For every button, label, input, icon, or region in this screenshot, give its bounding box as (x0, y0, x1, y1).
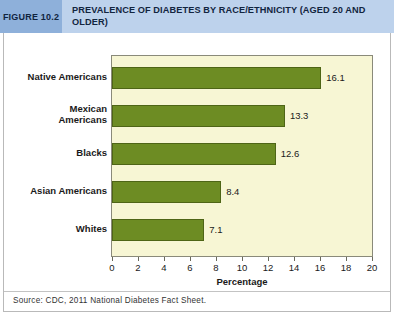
source-divider (4, 291, 390, 292)
x-axis-title: Percentage (111, 276, 373, 287)
x-axis-tick-label: 0 (109, 262, 114, 273)
x-axis-tick-label: 18 (341, 262, 352, 273)
category-label: MexicanAmericans (7, 103, 107, 125)
figure-container: FIGURE 10.2 PREVALENCE OF DIABETES BY RA… (0, 0, 394, 315)
x-axis-tick-label: 16 (315, 262, 326, 273)
bar-value-label: 13.3 (290, 105, 309, 127)
bar-value-label: 12.6 (281, 143, 300, 165)
bar-value-label: 16.1 (326, 67, 345, 89)
bar-value-label: 8.4 (226, 181, 239, 203)
category-label: Blacks (7, 147, 107, 158)
bars-layer: 16.113.312.68.47.1 (112, 56, 372, 256)
x-axis-tick-label: 14 (289, 262, 300, 273)
bar (112, 219, 204, 241)
plot-area: 16.113.312.68.47.1 (111, 55, 373, 257)
figure-body: Native AmericansMexicanAmericansBlacksAs… (3, 33, 391, 312)
figure-header: FIGURE 10.2 PREVALENCE OF DIABETES BY RA… (0, 0, 394, 33)
bar (112, 143, 276, 165)
category-label: Asian Americans (7, 185, 107, 196)
x-axis-tick (164, 257, 165, 261)
category-label: Whites (7, 223, 107, 234)
category-label: Native Americans (7, 71, 107, 82)
x-axis-tick (242, 257, 243, 261)
figure-title: PREVALENCE OF DIABETES BY RACE/ETHNICITY… (62, 0, 394, 33)
x-axis-tick (190, 257, 191, 261)
x-axis-tick-label: 4 (161, 262, 166, 273)
x-axis-tick (346, 257, 347, 261)
bar (112, 67, 321, 89)
x-axis-tick (216, 257, 217, 261)
bar (112, 181, 221, 203)
x-axis-tick-label: 8 (213, 262, 218, 273)
x-axis-tick-label: 2 (135, 262, 140, 273)
x-axis-tick-label: 12 (263, 262, 274, 273)
source-note: Source: CDC, 2011 National Diabetes Fact… (13, 296, 206, 305)
x-axis-tick-label: 20 (367, 262, 378, 273)
x-axis-tick (320, 257, 321, 261)
x-axis-tick-label: 10 (237, 262, 248, 273)
x-axis-tick (138, 257, 139, 261)
bar (112, 105, 285, 127)
x-axis-tick-label: 6 (187, 262, 192, 273)
x-axis-tick (112, 257, 113, 261)
category-axis-labels: Native AmericansMexicanAmericansBlacksAs… (4, 55, 107, 257)
x-axis-tick (268, 257, 269, 261)
figure-number-badge: FIGURE 10.2 (0, 0, 62, 33)
x-axis-tick (294, 257, 295, 261)
bar-value-label: 7.1 (209, 219, 222, 241)
x-axis-tick (372, 257, 373, 261)
